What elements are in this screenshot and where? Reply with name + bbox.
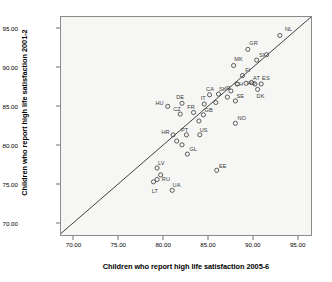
data-point-label: RU — [162, 176, 170, 182]
data-point-label: FI — [245, 67, 250, 73]
data-point — [259, 82, 263, 86]
x-tick-label: 70.00 — [66, 241, 81, 248]
data-point — [233, 99, 237, 103]
x-axis-title: Children who report high life satisfacti… — [60, 262, 312, 271]
y-tick-mark — [56, 67, 60, 68]
data-point — [197, 119, 201, 123]
scatter-plot-figure: Children who report high life satisfacti… — [0, 0, 332, 282]
data-point — [232, 63, 236, 67]
x-tick-label: 95.00 — [290, 241, 305, 248]
data-point-label: ES — [262, 75, 270, 81]
data-point — [191, 110, 195, 114]
y-tick-mark — [56, 145, 60, 146]
data-point — [202, 102, 206, 106]
data-point — [216, 92, 220, 96]
data-point — [225, 95, 229, 99]
y-tick-mark — [56, 28, 60, 29]
data-point-label: DK — [257, 93, 265, 99]
y-tick-mark — [56, 106, 60, 107]
data-point-label: HO — [247, 80, 256, 86]
data-point — [185, 152, 189, 156]
data-point-label: MK — [234, 56, 243, 62]
x-tick-mark — [163, 236, 164, 240]
y-tick-label: 80.00 — [3, 142, 18, 149]
data-point-label: CH — [235, 81, 243, 87]
y-tick-mark — [56, 222, 60, 223]
data-point-label: CA — [206, 86, 214, 92]
data-point-label: GB — [205, 107, 213, 113]
y-tick-label: 75.00 — [3, 180, 18, 187]
data-point-label: SE — [236, 93, 244, 99]
data-point-label: CZ — [173, 106, 181, 112]
data-point — [233, 121, 237, 125]
data-point — [180, 101, 184, 105]
plot-area: NLGRMKSIFIATESCHHODKIESENOCASKITDEHUGBFR… — [60, 16, 312, 236]
x-tick-mark — [297, 236, 298, 240]
data-point — [255, 58, 259, 62]
data-point — [175, 139, 179, 143]
data-point-label: SK — [219, 86, 227, 92]
data-point — [184, 133, 188, 137]
data-point — [207, 93, 211, 97]
x-tick-label: 90.00 — [245, 241, 260, 248]
data-point — [155, 166, 159, 170]
data-point-label: HU — [155, 100, 163, 106]
data-point-label: IT — [201, 95, 206, 101]
x-tick-label: 80.00 — [155, 241, 170, 248]
data-point-label: PT — [181, 127, 188, 133]
y-tick-mark — [56, 183, 60, 184]
data-point — [214, 100, 218, 104]
data-point-label: FR — [187, 104, 195, 110]
data-point — [201, 113, 205, 117]
data-point — [180, 143, 184, 147]
data-point-label: DE — [176, 94, 184, 100]
data-point — [178, 112, 182, 116]
data-point — [151, 180, 155, 184]
data-point — [246, 47, 250, 51]
data-point-label: HR — [161, 129, 169, 135]
data-point — [278, 33, 282, 37]
data-point — [170, 188, 174, 192]
data-point-label: EE — [219, 163, 227, 169]
x-tick-label: 75.00 — [111, 241, 126, 248]
data-point-label: GR — [249, 40, 258, 46]
y-tick-label: 90.00 — [3, 64, 18, 71]
data-point-label: NO — [237, 115, 246, 121]
x-tick-mark — [207, 236, 208, 240]
data-point — [166, 104, 170, 108]
data-point-label: US — [200, 127, 208, 133]
data-point-label: UA — [173, 182, 181, 188]
data-point-label: NL — [285, 26, 292, 32]
y-tick-label: 85.00 — [3, 103, 18, 110]
x-tick-mark — [118, 236, 119, 240]
data-point — [256, 87, 260, 91]
y-tick-label: 70.00 — [3, 219, 18, 226]
x-tick-mark — [73, 236, 74, 240]
data-point-label: LT — [152, 188, 158, 194]
data-point-label: SI — [259, 52, 265, 58]
data-point-label: GL — [189, 146, 197, 152]
y-axis-title: Children who report high life satisfacti… — [20, 3, 29, 223]
x-tick-label: 85.00 — [200, 241, 215, 248]
data-point — [198, 133, 202, 137]
y-tick-label: 95.00 — [3, 25, 18, 32]
x-tick-mark — [252, 236, 253, 240]
identity-reference-line — [61, 17, 311, 233]
data-point-label: LV — [158, 160, 165, 166]
